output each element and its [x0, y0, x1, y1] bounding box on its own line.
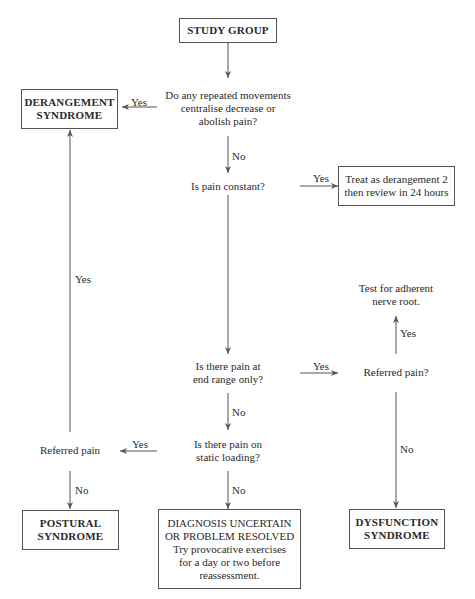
- text-line: Test for adherent: [346, 282, 446, 295]
- referred-pain-left: Referred pain: [30, 444, 110, 457]
- box-line: DIAGNOSIS UNCERTAIN: [167, 517, 291, 530]
- edge-label-endrange-no: No: [232, 406, 245, 418]
- box-line: POSTURAL: [40, 517, 102, 530]
- box-line: Treat as derangement 2: [345, 173, 448, 186]
- dysfunction-syndrome-box: DYSFUNCTION SYNDROME: [349, 509, 445, 549]
- question-repeated-movements: Do any repeated movements centralise dec…: [150, 89, 306, 128]
- text-line: Referred pain: [30, 444, 110, 457]
- question-line: Referred pain?: [350, 366, 442, 379]
- box-line: DERANGEMENT: [24, 96, 114, 109]
- question-line: Is pain constant?: [170, 180, 286, 193]
- box-line: SYNDROME: [364, 529, 430, 542]
- diagnosis-uncertain-box: DIAGNOSIS UNCERTAIN OR PROBLEM RESOLVED …: [158, 509, 301, 589]
- question-line: end range only?: [180, 373, 276, 386]
- treat-derangement-box: Treat as derangement 2 then review in 24…: [338, 166, 455, 206]
- box-line: then review in 24 hours: [345, 186, 449, 199]
- box-line: SYNDROME: [38, 530, 104, 543]
- box-line: SYNDROME: [37, 109, 103, 122]
- question-pain-constant: Is pain constant?: [170, 180, 286, 193]
- edge-label-constant-yes: Yes: [313, 172, 329, 184]
- question-line: centralise decrease or: [150, 102, 306, 115]
- box-line: OR PROBLEM RESOLVED: [165, 530, 294, 543]
- edge-label-referred-right-yes: Yes: [400, 327, 416, 339]
- box-line: Try provocative exercises: [173, 543, 286, 556]
- edge-label-repeated-no: No: [232, 150, 245, 162]
- edge-label-referred-right-no: No: [400, 443, 413, 455]
- edge-label-referred-left-no: No: [75, 484, 88, 496]
- edge-label-referred-left-yes-up: Yes: [75, 273, 91, 285]
- study-group-label: STUDY GROUP: [187, 24, 269, 37]
- edge-label-endrange-yes: Yes: [313, 360, 329, 372]
- edge-label-repeated-yes: Yes: [131, 96, 147, 108]
- edge-label-static-no: No: [232, 484, 245, 496]
- study-group-box: STUDY GROUP: [179, 18, 277, 43]
- question-end-range: Is there pain at end range only?: [180, 360, 276, 386]
- question-referred-pain-right: Referred pain?: [350, 366, 442, 379]
- postural-syndrome-box: POSTURAL SYNDROME: [22, 510, 119, 550]
- edge-label-static-yes: Yes: [132, 438, 148, 450]
- question-line: Do any repeated movements: [150, 89, 306, 102]
- derangement-syndrome-box: DERANGEMENT SYNDROME: [21, 89, 118, 129]
- question-line: static loading?: [180, 451, 276, 464]
- box-line: for a day or two before: [179, 556, 280, 569]
- question-line: Is there pain on: [180, 438, 276, 451]
- question-static-loading: Is there pain on static loading?: [180, 438, 276, 464]
- question-line: abolish pain?: [150, 115, 306, 128]
- test-adherent-nerve-root: Test for adherent nerve root.: [346, 282, 446, 308]
- text-line: nerve root.: [346, 295, 446, 308]
- box-line: DYSFUNCTION: [356, 516, 439, 529]
- question-line: Is there pain at: [180, 360, 276, 373]
- box-line: reassessment.: [199, 569, 259, 582]
